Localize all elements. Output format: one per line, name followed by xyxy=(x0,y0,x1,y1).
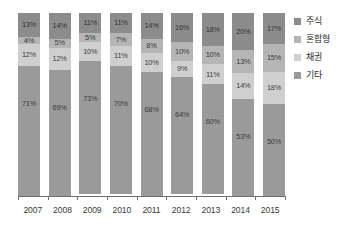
bar-segment-label: 12% xyxy=(53,55,67,62)
bar-segment: 12% xyxy=(18,44,40,66)
bar-segment-label: 50% xyxy=(267,138,281,145)
bar-segment: 70% xyxy=(110,66,132,194)
bar-segment-label: 10% xyxy=(175,48,189,55)
x-axis-label: 2012 xyxy=(166,203,196,217)
x-axis-label: 2011 xyxy=(137,203,167,217)
bar-segment: 17% xyxy=(263,13,285,44)
bar-segment: 16% xyxy=(171,13,193,42)
bar-segment-label: 7% xyxy=(116,36,126,43)
legend-label: 주식 xyxy=(306,17,322,26)
bar-segment: 12% xyxy=(49,48,71,70)
bar-segment-label: 8% xyxy=(146,42,156,49)
bar-segment: 9% xyxy=(171,61,193,77)
bar-segment-label: 53% xyxy=(236,133,250,140)
legend-item[interactable]: 기타 xyxy=(294,68,347,83)
bar-segment: 5% xyxy=(49,39,71,48)
axis-end-cap xyxy=(285,196,286,200)
bar-segment: 60% xyxy=(202,84,224,194)
bar-segment: 18% xyxy=(202,13,224,46)
bar-column: 14%5%12%69% xyxy=(49,13,71,196)
bar-segment: 50% xyxy=(263,104,285,196)
axis-tick xyxy=(196,196,197,200)
bar-column: 11%7%11%70% xyxy=(110,13,132,196)
legend-item[interactable]: 채권 xyxy=(294,50,347,65)
chart-legend: 주식혼합형채권기타 xyxy=(294,14,347,86)
stacked-bar-chart: 13%4%12%71%14%5%12%69%11%5%10%73%11%7%11… xyxy=(0,0,347,228)
bar-segment: 10% xyxy=(79,42,101,60)
bar-column: 16%10%9%64% xyxy=(171,13,193,196)
bar-segment-label: 11% xyxy=(206,71,220,78)
x-axis-label: 2008 xyxy=(48,203,78,217)
bar-column: 13%4%12%71% xyxy=(18,13,40,196)
legend-item[interactable]: 혼합형 xyxy=(294,32,347,47)
bar-segment-label: 13% xyxy=(236,58,250,65)
axis-tick xyxy=(48,196,49,200)
bar-segment: 13% xyxy=(232,50,254,74)
bar-segment-label: 71% xyxy=(22,100,36,107)
bar-segment-label: 14% xyxy=(144,22,158,29)
bar-segment: 11% xyxy=(202,64,224,84)
bar-segment: 20% xyxy=(232,13,254,50)
legend-label: 혼합형 xyxy=(306,35,330,44)
bar-segment-label: 11% xyxy=(114,19,128,26)
bar-segment-label: 10% xyxy=(206,51,220,58)
x-axis-line xyxy=(18,196,285,197)
axis-tick xyxy=(255,196,256,200)
bar-segment: 13% xyxy=(18,13,40,37)
bar-segment: 10% xyxy=(202,46,224,64)
bar-segment-label: 15% xyxy=(267,54,281,61)
x-axis-label: 2007 xyxy=(18,203,48,217)
bar-segment: 14% xyxy=(232,73,254,99)
bar-segment-label: 5% xyxy=(54,39,64,46)
bar-segment-label: 18% xyxy=(267,84,281,91)
bar-segment-label: 11% xyxy=(114,52,128,59)
legend-swatch-icon xyxy=(294,36,301,43)
bar-segment: 10% xyxy=(171,42,193,60)
x-axis-label: 2013 xyxy=(196,203,226,217)
bar-segment-label: 12% xyxy=(22,51,36,58)
bar-segment: 71% xyxy=(18,66,40,196)
x-axis-label: 2015 xyxy=(255,203,285,217)
legend-item[interactable]: 주식 xyxy=(294,14,347,29)
bar-segment: 68% xyxy=(141,72,163,196)
legend-label: 채권 xyxy=(306,53,322,62)
axis-tick xyxy=(137,196,138,200)
bar-segment: 64% xyxy=(171,77,193,194)
bar-column: 17%15%18%50% xyxy=(263,13,285,196)
bar-segment-label: 64% xyxy=(175,111,189,118)
bar-segment: 7% xyxy=(110,33,132,46)
bar-segment-label: 9% xyxy=(177,65,187,72)
bar-segment: 53% xyxy=(232,99,254,196)
bar-column: 18%10%11%60% xyxy=(202,13,224,196)
axis-tick xyxy=(166,196,167,200)
bar-segment: 14% xyxy=(49,13,71,39)
plot-area: 13%4%12%71%14%5%12%69%11%5%10%73%11%7%11… xyxy=(18,13,285,196)
bar-segment-label: 69% xyxy=(53,104,67,111)
bar-segment-label: 60% xyxy=(206,118,220,125)
bar-segment-label: 10% xyxy=(83,48,97,55)
bar-segment-label: 17% xyxy=(267,25,281,32)
axis-end-cap xyxy=(18,196,19,200)
bar-segment: 14% xyxy=(141,13,163,39)
bar-column: 11%5%10%73% xyxy=(79,13,101,196)
bar-segment: 11% xyxy=(110,13,132,33)
x-axis-label: 2014 xyxy=(226,203,256,217)
bar-segment-label: 73% xyxy=(83,95,97,102)
bar-segment: 10% xyxy=(141,53,163,71)
bar-segment-label: 68% xyxy=(144,106,158,113)
bar-segment: 73% xyxy=(79,61,101,195)
bar-segment-label: 4% xyxy=(24,37,34,44)
axis-tick xyxy=(226,196,227,200)
bar-segment: 69% xyxy=(49,70,71,196)
legend-swatch-icon xyxy=(294,72,301,79)
bar-segment: 18% xyxy=(263,72,285,105)
bar-segment-label: 18% xyxy=(206,26,220,33)
axis-tick xyxy=(77,196,78,200)
bar-column: 14%8%10%68% xyxy=(141,13,163,196)
bar-segment: 15% xyxy=(263,44,285,71)
bar-segment: 8% xyxy=(141,39,163,54)
bar-segment-label: 11% xyxy=(83,19,97,26)
x-axis-labels: 200720082009201020112012201320142015 xyxy=(18,203,285,217)
legend-swatch-icon xyxy=(294,54,301,61)
bar-segment-label: 14% xyxy=(53,22,67,29)
